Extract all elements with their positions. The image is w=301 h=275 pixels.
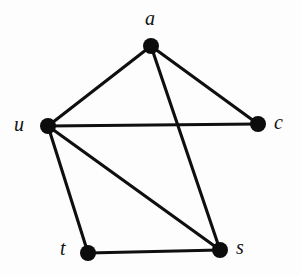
- node-label-t: t: [60, 238, 66, 258]
- edge-a-s: [151, 46, 220, 250]
- edge-u-c: [48, 124, 258, 126]
- edge-u-s: [48, 126, 220, 250]
- edge-a-u: [48, 46, 151, 126]
- node-label-a: a: [145, 8, 155, 28]
- graph-node-t: [80, 245, 96, 261]
- graph-node-a: [143, 38, 159, 54]
- node-layer: [40, 38, 266, 261]
- node-label-u: u: [14, 114, 24, 134]
- edge-u-t: [48, 126, 88, 253]
- edge-a-c: [151, 46, 258, 124]
- edge-layer: [48, 46, 258, 253]
- graph-figure: aucts: [0, 0, 301, 275]
- graph-node-u: [40, 118, 56, 134]
- edge-t-s: [88, 250, 220, 253]
- node-label-c: c: [274, 112, 283, 132]
- graph-node-c: [250, 116, 266, 132]
- node-label-s: s: [236, 237, 244, 257]
- graph-node-s: [212, 242, 228, 258]
- graph-canvas: [0, 0, 301, 275]
